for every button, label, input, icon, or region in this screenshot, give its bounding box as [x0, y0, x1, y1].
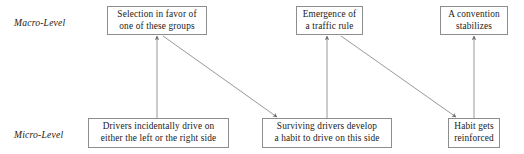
node-drivers-line-1: Drivers incidentally drive on [103, 121, 215, 133]
node-convention-line-1: A convention [448, 9, 500, 21]
node-convention-line-2: stabilizes [456, 21, 492, 33]
node-surviving-line-2: a habit to drive on this side [274, 133, 379, 145]
node-emergence[interactable]: Emergence of a traffic rule [296, 6, 363, 35]
node-convention[interactable]: A convention stabilizes [440, 6, 508, 35]
node-selection[interactable]: Selection in favor of one of these group… [107, 6, 207, 35]
edge-selection-to-surviving [163, 36, 277, 117]
edge-group [157, 36, 474, 118]
node-drivers[interactable]: Drivers incidentally drive on either the… [88, 118, 229, 148]
edge-emergence-to-habit [341, 36, 456, 117]
node-habit-line-1: Habit gets [454, 121, 493, 133]
level-label-micro: Micro-Level [14, 129, 63, 140]
node-habit-line-2: reinforced [454, 133, 494, 145]
diagram-canvas: Macro-Level Micro-Level Selection in fav… [0, 0, 524, 154]
node-surviving-line-1: Surviving drivers develop [277, 121, 377, 133]
node-drivers-line-2: either the left or the right side [101, 133, 216, 145]
node-surviving[interactable]: Surviving drivers develop a habit to dri… [262, 118, 392, 148]
node-habit[interactable]: Habit gets reinforced [448, 118, 500, 148]
node-selection-line-1: Selection in favor of [117, 9, 196, 21]
level-label-macro: Macro-Level [14, 17, 65, 28]
node-selection-line-2: one of these groups [119, 21, 194, 33]
node-emergence-line-2: a traffic rule [306, 21, 354, 33]
node-emergence-line-1: Emergence of [303, 9, 357, 21]
